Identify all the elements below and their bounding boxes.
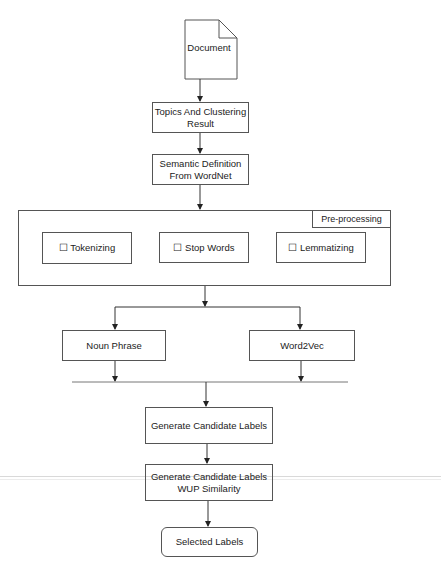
wup-line2: WUP Similarity	[177, 483, 240, 494]
step-stop-words: ☐ Stop Words	[159, 232, 249, 263]
topics-clustering-box: Topics And Clustering Result	[152, 102, 249, 133]
semantic-definition-box: Semantic Definition From WordNet	[152, 154, 249, 185]
topics-line1: Topics And Clustering	[155, 106, 246, 117]
word2vec-box: Word2Vec	[249, 330, 355, 361]
wup-similarity-box: Generate Candidate Labels WUP Similarity	[145, 464, 273, 501]
step-lemmatizing: ☐ Lemmatizing	[276, 232, 366, 263]
semantic-line1: Semantic Definition	[160, 158, 242, 169]
semantic-line2: From WordNet	[169, 170, 231, 181]
step-tokenizing: ☐ Tokenizing	[42, 232, 132, 264]
preprocessing-title: Pre-processing	[312, 211, 390, 228]
topics-line2: Result	[187, 118, 214, 129]
noun-phrase-box: Noun Phrase	[62, 330, 166, 361]
generate-candidate-labels-box: Generate Candidate Labels	[145, 407, 273, 444]
wup-line1: Generate Candidate Labels	[151, 471, 267, 482]
document-label: Document	[185, 42, 233, 53]
selected-labels-terminal: Selected Labels	[161, 527, 258, 557]
